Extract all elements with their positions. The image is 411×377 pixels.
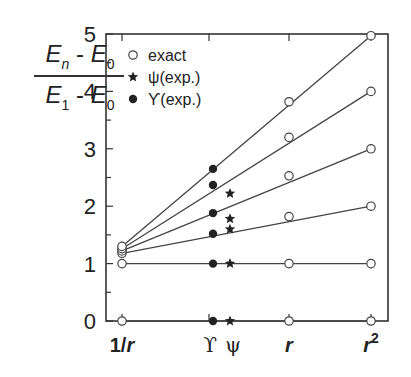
exact-circle-marker — [367, 87, 375, 95]
exact-circle-marker — [118, 317, 126, 325]
fit-line-level-5 — [122, 36, 371, 247]
legend-marker-open-circle — [129, 51, 137, 59]
y-tick-label: 3 — [84, 137, 96, 162]
fit-line-level-2 — [122, 206, 371, 253]
x-tick-label: 1/r — [110, 334, 136, 356]
exact-circle-marker — [367, 202, 375, 210]
exact-circle-marker — [285, 317, 293, 325]
legend-label: exact — [148, 47, 187, 64]
upsilon-exp-dot-marker — [209, 259, 217, 267]
exact-circle-marker — [118, 259, 126, 267]
upsilon-exp-dot-marker — [209, 317, 217, 325]
psi-exp-star-marker — [225, 213, 235, 223]
y-tick-label: 1 — [84, 252, 96, 277]
exact-circle-marker — [285, 212, 293, 220]
exact-circle-marker — [367, 317, 375, 325]
exact-circle-marker — [285, 172, 293, 180]
psi-exp-star-marker — [225, 316, 235, 326]
exact-circle-marker — [285, 133, 293, 141]
y-tick-label: 0 — [84, 309, 96, 334]
exact-circle-marker — [118, 242, 126, 250]
exact-circle-marker — [367, 145, 375, 153]
legend-marker-star — [128, 72, 138, 82]
fit-line-level-3 — [122, 149, 371, 251]
y-tick-label: 5 — [84, 22, 96, 47]
legend-marker-filled-circle — [129, 95, 137, 103]
x-tick-label: ϒ — [203, 333, 217, 357]
legend-label: ϒ(exp.) — [148, 91, 201, 108]
fit-line-level-4 — [122, 91, 371, 248]
legend-label: ψ(exp.) — [148, 69, 200, 86]
x-tick-label: r2 — [363, 330, 379, 356]
y-tick-label: 4 — [84, 79, 96, 104]
exact-circle-marker — [285, 98, 293, 106]
psi-exp-star-marker — [225, 258, 235, 268]
exact-circle-marker — [367, 259, 375, 267]
upsilon-exp-dot-marker — [209, 209, 217, 217]
upsilon-exp-dot-marker — [209, 181, 217, 189]
upsilon-exp-dot-marker — [209, 165, 217, 173]
x-tick-label: ψ — [225, 333, 241, 357]
chart-canvas: 0123451/rϒψrr2exactψ(exp.)ϒ(exp.) — [0, 0, 411, 377]
x-tick-label: r — [285, 334, 294, 356]
upsilon-exp-dot-marker — [209, 230, 217, 238]
exact-circle-marker — [367, 32, 375, 40]
y-tick-label: 2 — [84, 194, 96, 219]
exact-circle-marker — [285, 259, 293, 267]
psi-exp-star-marker — [225, 188, 235, 198]
